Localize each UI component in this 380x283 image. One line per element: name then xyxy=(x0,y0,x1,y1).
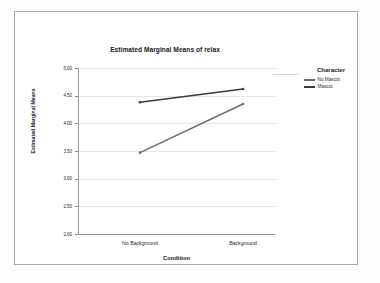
y-axis-title: Estimated Marginal Means xyxy=(30,61,36,181)
series-data-point xyxy=(139,101,142,104)
y-tick-label: 2.00 xyxy=(52,232,72,237)
y-tick-label: 3.00 xyxy=(52,176,72,181)
figure-canvas: Estimated Marginal Means of relax 2.002.… xyxy=(0,0,380,283)
x-tick-label: No Background xyxy=(105,240,175,246)
y-tick-label: 4.00 xyxy=(52,121,72,126)
legend-item: No Mascot xyxy=(304,77,370,82)
legend-separator-line xyxy=(273,74,299,75)
legend-label: Mascot xyxy=(318,84,333,89)
chart-title: Estimated Marginal Means of relax xyxy=(15,46,315,53)
series-data-point xyxy=(139,151,142,154)
series-data-point xyxy=(242,103,245,106)
x-tick-label: Background xyxy=(208,240,278,246)
y-tick-mark xyxy=(75,234,78,235)
series-line xyxy=(140,104,243,153)
legend-swatch-icon xyxy=(304,79,315,81)
y-tick-label: 2.50 xyxy=(52,204,72,209)
chart-frame: Estimated Marginal Means of relax 2.002.… xyxy=(14,11,358,265)
y-tick-label: 4.50 xyxy=(52,93,72,98)
legend-label: No Mascot xyxy=(318,77,340,82)
series-line xyxy=(140,89,243,102)
x-axis-title: Condition xyxy=(78,255,275,261)
y-tick-label: 3.50 xyxy=(52,149,72,154)
legend-item: Mascot xyxy=(304,84,370,89)
series-data-point xyxy=(242,88,245,91)
series-lines-group xyxy=(78,68,275,234)
legend-items-group: No MascotMascot xyxy=(300,77,370,89)
legend-swatch-icon xyxy=(304,86,315,88)
x-axis-line xyxy=(78,234,275,235)
legend-title: Character xyxy=(300,67,362,73)
legend: Character No MascotMascot xyxy=(300,67,370,91)
y-tick-label: 5.00 xyxy=(52,66,72,71)
